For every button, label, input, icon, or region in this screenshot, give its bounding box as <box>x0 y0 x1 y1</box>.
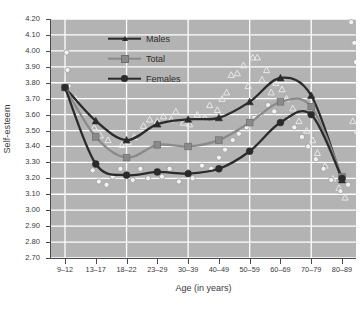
scatter-point-circle <box>349 20 354 25</box>
scatter-point-circle <box>299 134 304 139</box>
scatter-point-circle <box>346 182 351 187</box>
scatter-point-circle <box>190 176 195 181</box>
scatter-point-circle <box>338 188 343 193</box>
data-marker-square <box>92 134 99 141</box>
scatter-point-circle <box>321 166 326 171</box>
scatter-point-triangle <box>91 124 97 130</box>
x-axis-tick-mark <box>219 259 220 264</box>
legend-label: Males <box>146 34 170 44</box>
data-marker-circle <box>154 169 161 176</box>
scatter-point-circle <box>352 40 356 45</box>
circle-marker-icon <box>121 75 127 81</box>
scatter-point-triangle <box>105 137 111 143</box>
scatter-point-triangle <box>342 194 348 200</box>
x-axis-tick-mark <box>96 259 97 264</box>
x-axis-tick-mark <box>250 259 251 264</box>
scatter-point-circle <box>230 137 235 142</box>
scatter-point-circle <box>306 144 311 149</box>
x-axis-tick-mark <box>65 259 66 264</box>
square-marker-icon <box>121 55 129 63</box>
scatter-point-circle <box>167 166 172 171</box>
legend-item-males[interactable]: Males <box>108 33 170 44</box>
data-marker-square <box>216 137 223 144</box>
y-axis-tick-label: 3.40 <box>10 142 40 150</box>
scatter-point-triangle <box>314 150 320 156</box>
triangle-marker-icon <box>122 36 128 41</box>
scatter-point-triangle <box>290 105 296 111</box>
x-axis-tick-label: 80–89 <box>322 266 362 273</box>
legend-label: Females <box>146 74 181 84</box>
y-axis-tick-label: 2.80 <box>10 238 40 246</box>
scatter-point-triangle <box>234 70 240 76</box>
y-axis-tick-label: 4.00 <box>10 47 40 55</box>
data-marker-square <box>308 103 315 110</box>
data-marker-circle <box>277 119 284 126</box>
scatter-point-triangle <box>254 54 260 60</box>
y-axis-tick-label: 4.10 <box>10 31 40 39</box>
legend-item-total[interactable]: Total <box>108 53 165 64</box>
x-axis-tick-mark <box>188 259 189 264</box>
legend-label: Total <box>146 54 165 64</box>
data-marker-square <box>277 99 284 106</box>
data-marker-circle <box>92 161 99 168</box>
scatter-point-triangle <box>296 118 302 124</box>
scatter-point-triangle <box>350 118 356 124</box>
data-marker-square <box>154 142 161 149</box>
scatter-point-triangle <box>268 89 274 95</box>
x-axis-tick-mark <box>127 259 128 264</box>
scatter-point-circle <box>64 50 69 55</box>
scatter-point-circle <box>159 174 164 179</box>
x-axis-tick-mark <box>342 259 343 264</box>
data-marker-circle <box>123 172 130 179</box>
legend-item-females[interactable]: Females <box>108 73 181 84</box>
y-axis-tick-label: 3.30 <box>10 158 40 166</box>
scatter-point-circle <box>292 125 297 130</box>
data-marker-circle <box>308 111 315 118</box>
y-axis-tick-label: 3.60 <box>10 111 40 119</box>
y-axis-tick-label: 3.00 <box>10 206 40 214</box>
y-axis-tick-label: 2.90 <box>10 222 40 230</box>
data-marker-circle <box>215 165 222 172</box>
data-marker-square <box>123 154 130 161</box>
y-axis-tick-label: 3.10 <box>10 190 40 198</box>
x-axis-tick-mark <box>157 259 158 264</box>
scatter-point-circle <box>199 163 204 168</box>
data-marker-circle <box>246 148 253 155</box>
scatter-point-circle <box>90 168 95 173</box>
y-axis-tick-mark <box>46 258 51 259</box>
scatter-point-circle <box>65 67 70 72</box>
scatter-point-triangle <box>263 67 269 73</box>
y-axis-tick-label: 4.20 <box>10 15 40 23</box>
scatter-point-circle <box>96 179 101 184</box>
data-marker-circle <box>339 175 346 182</box>
chart-container: Self-esteem 4.204.104.003.903.803.703.60… <box>0 0 364 310</box>
scatter-point-circle <box>222 147 227 152</box>
scatter-point-circle <box>130 177 135 182</box>
y-axis-tick-label: 3.20 <box>10 174 40 182</box>
scatter-point-triangle <box>228 72 234 78</box>
y-axis-tick-label: 3.70 <box>10 95 40 103</box>
plot-area <box>51 19 356 258</box>
y-axis-tick-label: 3.50 <box>10 127 40 135</box>
scatter-point-circle <box>329 177 334 182</box>
x-axis-label: Age (in years) <box>51 283 356 293</box>
scatter-point-circle <box>176 179 181 184</box>
scatter-point-circle <box>104 182 109 187</box>
scatter-point-circle <box>313 157 318 162</box>
y-axis-tick-label: 3.90 <box>10 63 40 71</box>
data-marker-square <box>246 119 253 126</box>
scatter-point-triangle <box>140 123 146 129</box>
y-axis-tick-label: 2.70 <box>10 254 40 262</box>
scatter-point-circle <box>216 155 221 160</box>
data-marker-square <box>185 143 192 150</box>
scatter-point-circle <box>118 166 123 171</box>
scatter-point-triangle <box>223 89 229 95</box>
scatter-point-circle <box>272 109 277 114</box>
y-axis-tick-label: 3.80 <box>10 79 40 87</box>
scatter-point-triangle <box>279 86 285 92</box>
scatter-point-triangle <box>207 102 213 108</box>
data-marker-circle <box>185 170 192 177</box>
data-marker-circle <box>62 84 69 91</box>
scatter-point-triangle <box>214 107 220 113</box>
scatter-point-circle <box>146 176 151 181</box>
